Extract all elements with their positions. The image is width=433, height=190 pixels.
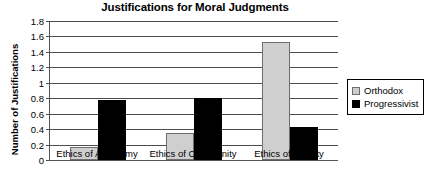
y-tick-mark (46, 21, 50, 22)
y-tick-label: 1 (4, 77, 44, 88)
bar-orthodox-ethics-of-divinity (262, 42, 290, 160)
y-tick-mark (46, 145, 50, 146)
x-axis-label-ethics-of-divinity: Ethics of Divinity (254, 148, 324, 159)
y-tick-label: 1.2 (4, 62, 44, 73)
y-tick-mark (46, 36, 50, 37)
y-tick-label: 0.2 (4, 139, 44, 150)
gridline (50, 52, 338, 53)
legend-item-orthodox: Orthodox (352, 84, 418, 97)
gridline (50, 36, 338, 37)
x-axis-label-ethics-of-community: Ethics of Community (149, 148, 236, 159)
chart-title: Justifications for Moral Judgments (0, 1, 390, 13)
y-tick-mark (46, 52, 50, 53)
y-tick-label: 1.8 (4, 16, 44, 27)
x-axis-label-ethics-of-autonomy: Ethics of Autonomy (56, 148, 137, 159)
y-tick-label: 0.4 (4, 124, 44, 135)
y-tick-mark (46, 129, 50, 130)
legend-label-progressivist: Progressivist (364, 98, 418, 109)
y-tick-label: 0.8 (4, 93, 44, 104)
y-tick-mark (46, 67, 50, 68)
legend-label-orthodox: Orthodox (364, 85, 403, 96)
y-tick-mark (46, 98, 50, 99)
y-tick-label: 1.6 (4, 31, 44, 42)
bar-chart: Justifications for Moral Judgments Numbe… (0, 0, 433, 190)
plot-area: 00.20.40.60.811.21.41.61.8 (49, 21, 338, 161)
chart-legend: OrthodoxProgressivist (347, 79, 424, 115)
y-tick-label: 1.4 (4, 46, 44, 57)
gridline (50, 21, 338, 22)
legend-swatch-orthodox (352, 87, 360, 95)
y-tick-mark (46, 114, 50, 115)
legend-swatch-progressivist (352, 100, 360, 108)
y-tick-label: 0 (4, 155, 44, 166)
gridline (50, 83, 338, 84)
y-tick-mark (46, 160, 50, 161)
y-tick-mark (46, 83, 50, 84)
gridline (50, 67, 338, 68)
y-tick-label: 0.6 (4, 108, 44, 119)
legend-item-progressivist: Progressivist (352, 97, 418, 110)
